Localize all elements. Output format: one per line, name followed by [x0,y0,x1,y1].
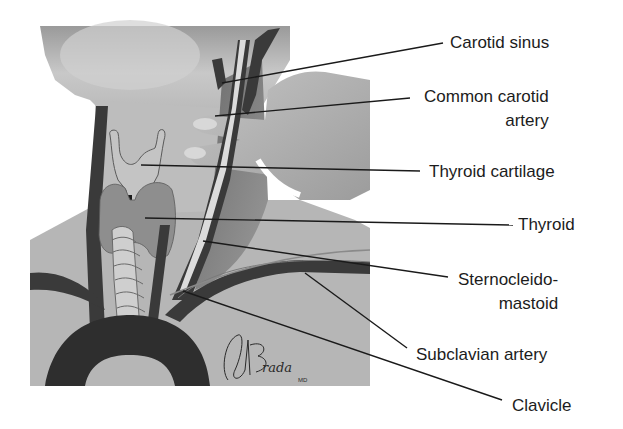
signature-text: rada [262,360,292,375]
label-thyroid: Thyroid [518,213,575,237]
label-text: Sternocleido- [458,268,558,292]
label-text: artery [424,109,549,133]
label-text: Thyroid [518,215,575,234]
label-common-carotid-artery: Common carotid artery [424,85,549,133]
label-subclavian-artery: Subclavian artery [416,343,547,367]
signature-suffix: MD [298,377,308,383]
label-thyroid-cartilage: Thyroid cartilage [429,160,555,184]
label-text: Carotid sinus [450,33,549,52]
label-carotid-sinus: Carotid sinus [450,31,549,55]
label-text: Subclavian artery [416,345,547,364]
label-sternocleidomastoid: Sternocleido- mastoid [458,268,558,316]
label-text: Thyroid cartilage [429,162,555,181]
label-clavicle: Clavicle [512,394,572,418]
label-text: mastoid [458,292,558,316]
label-text: Common carotid [424,85,549,109]
label-text: Clavicle [512,396,572,415]
